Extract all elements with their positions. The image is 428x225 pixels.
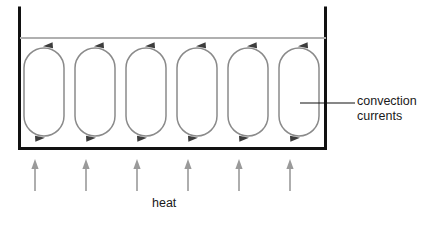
heat-arrow: [133, 159, 140, 191]
convection-loop-path: [228, 48, 268, 136]
convection-loop-path: [126, 48, 166, 136]
convection-currents-label-line2: currents: [357, 109, 417, 124]
convection-loop-path: [177, 48, 217, 136]
diagram-canvas: convection currents heat: [0, 0, 428, 225]
heat-arrow: [82, 159, 89, 191]
convection-loop-path: [24, 48, 64, 136]
heat-arrow: [235, 159, 242, 191]
heat-arrow: [31, 159, 38, 191]
convection-loop-path: [279, 48, 319, 136]
convection-cell: [279, 42, 319, 142]
heat-arrow: [286, 159, 293, 191]
convection-cell: [228, 42, 268, 142]
convection-cell: [24, 42, 64, 142]
convection-cell: [75, 42, 115, 142]
heat-arrows-group: [31, 159, 293, 191]
convection-currents-label-line1: convection: [357, 94, 417, 109]
convection-currents-label: convection currents: [357, 94, 417, 124]
heat-label: heat: [152, 196, 176, 211]
convection-loop-path: [75, 48, 115, 136]
heat-arrow: [184, 159, 191, 191]
convection-cell: [177, 42, 217, 142]
convection-cell: [126, 42, 166, 142]
